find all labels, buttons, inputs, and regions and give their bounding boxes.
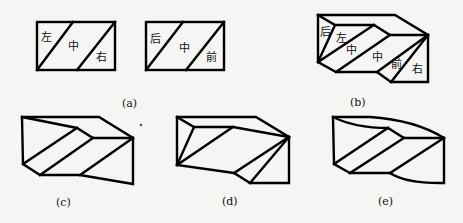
figure-b: 后 左 中 中 前 右 bbox=[318, 15, 428, 82]
figure-canvas: 左 中 右 后 中 前 (a) 后 左 中 中 前 右 (b) (c) bbox=[0, 0, 463, 223]
figure-a-left-box: 左 中 右 bbox=[37, 22, 115, 70]
label-middle: 中 bbox=[68, 40, 79, 53]
caption-c: (c) bbox=[56, 196, 71, 209]
divider-line bbox=[186, 22, 224, 70]
figure-e bbox=[333, 117, 444, 183]
label-front: 前 bbox=[206, 50, 217, 64]
label-right: 右 bbox=[412, 62, 423, 76]
label-middle: 中 bbox=[179, 42, 190, 55]
label-middle-1: 中 bbox=[346, 44, 357, 57]
stray-dot bbox=[140, 124, 143, 127]
caption-a: (a) bbox=[122, 97, 137, 110]
figure-d bbox=[177, 117, 289, 183]
caption-d: (d) bbox=[222, 195, 238, 208]
divider-line bbox=[80, 138, 133, 175]
label-front: 前 bbox=[391, 57, 402, 71]
figure-a-right-box: 后 中 前 bbox=[146, 22, 224, 70]
figure-c bbox=[22, 117, 142, 184]
label-left: 左 bbox=[41, 31, 52, 44]
caption-e: (e) bbox=[378, 195, 393, 208]
caption-b: (b) bbox=[350, 96, 366, 109]
label-back: 后 bbox=[150, 33, 161, 46]
divider-line bbox=[40, 138, 93, 175]
label-middle-2: 中 bbox=[372, 51, 383, 64]
divider-line bbox=[146, 22, 183, 70]
label-right: 右 bbox=[96, 50, 107, 64]
label-back: 后 bbox=[320, 26, 331, 39]
divider-line bbox=[334, 128, 388, 164]
divider-line bbox=[23, 128, 77, 164]
